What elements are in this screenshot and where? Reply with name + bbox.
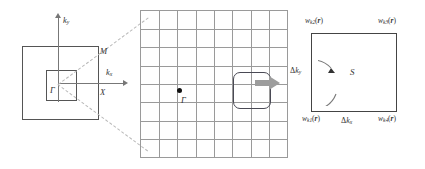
- kx-axis-arrow-icon: [123, 80, 128, 86]
- grid-line-horizontal: [141, 121, 287, 122]
- bz-point-label-M: M: [100, 47, 107, 56]
- bz-point-label-gamma: Γ: [50, 86, 55, 95]
- bz-point-label-X: X: [100, 88, 105, 97]
- ky-axis-line: [58, 18, 59, 102]
- wannier-label-top-left: wk2(r): [305, 17, 323, 25]
- delta-kx-label: Δkx: [341, 117, 352, 126]
- kx-axis-label: kx: [106, 68, 112, 78]
- brillouin-zone-panel: ky kx M X Γ: [0, 0, 138, 169]
- wannier-label-top-right: wk3(r): [378, 17, 396, 25]
- grid-line-horizontal: [141, 47, 287, 48]
- delta-ky-label: Δky: [290, 67, 301, 76]
- kx-axis-line: [58, 83, 124, 84]
- grid-line-horizontal: [141, 66, 287, 67]
- grid-line-horizontal: [141, 139, 287, 140]
- loop-area-label-S: S: [350, 68, 355, 77]
- gamma-point-dot: [177, 88, 182, 93]
- ky-axis-arrow-icon: [55, 13, 61, 18]
- zoom-arrow-icon: [269, 76, 280, 90]
- magnified-cell-panel: S wk2(r) wk3(r) wk1(r) wk4(r) Δky Δkx: [288, 0, 425, 169]
- wannier-label-bottom-right: wk4(r): [378, 115, 396, 123]
- wannier-label-bottom-left: wk1(r): [302, 115, 320, 123]
- ky-axis-label: ky: [63, 16, 69, 26]
- highlighted-k-cell: [233, 72, 271, 109]
- zoom-arrow-tail: [255, 80, 270, 86]
- figure-root: ky kx M X Γ Γ S: [0, 0, 425, 169]
- grid-gamma-label: Γ: [181, 96, 186, 105]
- grid-line-horizontal: [141, 29, 287, 30]
